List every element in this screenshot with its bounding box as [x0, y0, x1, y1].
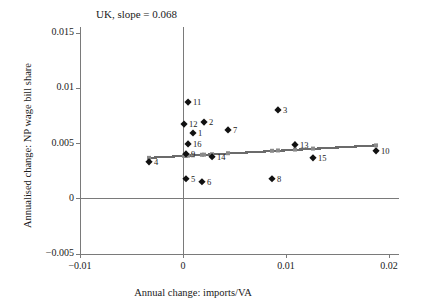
data-point-label: 4	[154, 157, 158, 167]
data-point-label: 16	[193, 139, 202, 149]
data-point-label: 9	[191, 149, 195, 159]
y-tick-label: −0.005	[46, 247, 74, 258]
data-point-marker	[200, 118, 207, 125]
data-point-marker	[189, 129, 196, 136]
data-point-marker	[224, 126, 231, 133]
fitted-value-marker	[226, 151, 230, 155]
data-point-label: 2	[209, 117, 213, 127]
x-tick-label: 0.02	[380, 260, 398, 271]
x-tick-label: 0.01	[277, 260, 295, 271]
y-tick-label: 0.01	[57, 81, 75, 92]
x-tick-label: 0	[181, 260, 186, 271]
data-point-marker	[184, 98, 191, 105]
data-point-marker	[198, 178, 205, 185]
data-point-label: 8	[277, 174, 281, 184]
data-point-label: 3	[283, 105, 287, 115]
data-point-label: 15	[318, 153, 327, 163]
fitted-value-marker	[270, 149, 274, 153]
data-point-marker	[184, 140, 191, 147]
data-point-label: 7	[233, 125, 237, 135]
data-point-label: 11	[193, 97, 201, 107]
data-point-marker	[180, 120, 187, 127]
data-point-label: 5	[191, 174, 195, 184]
data-point-label: 13	[300, 140, 309, 150]
y-tick-label: 0.005	[52, 137, 75, 148]
data-point-label: 10	[381, 146, 390, 156]
data-point-marker	[372, 147, 379, 154]
data-point-marker	[274, 106, 281, 113]
data-point-marker	[309, 154, 316, 161]
fitted-value-marker	[202, 153, 206, 157]
x-tick-label: −0.01	[68, 260, 91, 271]
data-point-marker	[145, 158, 152, 165]
fitted-value-marker	[311, 147, 315, 151]
data-point-marker	[268, 175, 275, 182]
fitted-value-marker	[374, 143, 378, 147]
scatter-plot-canvas	[0, 0, 426, 308]
y-tick-label: 0	[69, 192, 74, 203]
y-tick-label: 0.015	[52, 26, 75, 37]
chart-figure: UK, slope = 0.068 Annual change: imports…	[0, 0, 426, 308]
data-point-label: 6	[207, 177, 211, 187]
data-point-label: 14	[217, 152, 226, 162]
data-point-marker	[291, 141, 298, 148]
data-point-label: 12	[189, 119, 198, 129]
fitted-value-marker	[276, 148, 280, 152]
data-point-label: 1	[198, 128, 202, 138]
